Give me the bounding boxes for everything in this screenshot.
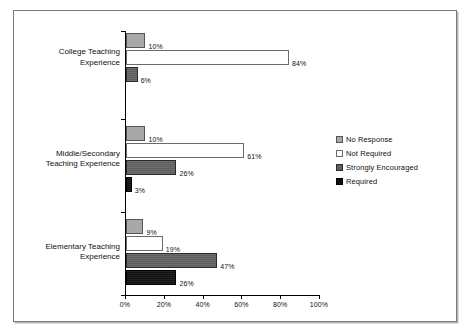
bar (126, 219, 143, 234)
bar-value-label: 84% (292, 60, 306, 67)
category-label-line: Teaching Experience (16, 159, 120, 170)
legend-label: Not Required (346, 149, 391, 158)
bar-value-label: 26% (179, 280, 193, 287)
bar-value-label: 47% (220, 263, 234, 270)
category-label-line: Experience (16, 252, 120, 263)
y-axis-tick (121, 119, 125, 120)
legend-item: Strongly Encouraged (336, 160, 452, 174)
bar (126, 236, 163, 251)
chart-frame: College TeachingExperienceMiddle/Seconda… (13, 10, 457, 322)
bar-value-label: 3% (135, 187, 145, 194)
bar-value-label: 61% (247, 153, 261, 160)
bar-value-label: 9% (146, 229, 156, 236)
bar (126, 126, 145, 141)
x-axis-tick-label: 100% (310, 301, 328, 308)
category-axis-labels: College TeachingExperienceMiddle/Seconda… (14, 23, 120, 293)
category-label-line: Elementary Teaching (16, 242, 120, 253)
legend-swatch-icon (336, 150, 343, 157)
x-axis-tick (125, 295, 126, 299)
x-axis-tick-label: 80% (273, 301, 287, 308)
bar (126, 143, 244, 158)
category-label-line: College Teaching (16, 47, 120, 58)
legend-item: Not Required (336, 146, 452, 160)
x-axis-tick-label: 60% (234, 301, 248, 308)
category-label-line: Experience (16, 58, 120, 69)
category-label-line: Middle/Secondary (16, 149, 120, 160)
x-axis-tick (164, 295, 165, 299)
x-axis-tick (203, 295, 204, 299)
category-label: Middle/SecondaryTeaching Experience (16, 149, 120, 170)
legend-item: Required (336, 174, 452, 188)
bar-value-label: 26% (179, 170, 193, 177)
bar (126, 177, 132, 192)
category-label: College TeachingExperience (16, 47, 120, 68)
bar (126, 253, 217, 268)
legend-swatch-icon (336, 164, 343, 171)
bar (126, 160, 176, 175)
legend-label: Strongly Encouraged (346, 163, 418, 172)
x-axis-tick (241, 295, 242, 299)
bar-value-label: 19% (166, 246, 180, 253)
x-axis-tick-label: 20% (157, 301, 171, 308)
chart-legend: No ResponseNot RequiredStrongly Encourag… (336, 132, 452, 188)
x-axis-tick (319, 295, 320, 299)
y-axis-tick (121, 212, 125, 213)
bar (126, 67, 138, 82)
plot-area: 10%84%6%10%61%26%3%9%19%47%26% 0%20%40%6… (125, 23, 319, 293)
x-axis-tick (280, 295, 281, 299)
bar-value-label: 10% (148, 43, 162, 50)
x-axis-tick-label: 40% (195, 301, 209, 308)
y-axis-tick (121, 31, 125, 32)
bar (126, 33, 145, 48)
legend-label: No Response (346, 135, 393, 144)
legend-swatch-icon (336, 136, 343, 143)
x-axis-line (125, 295, 320, 296)
bar (126, 50, 289, 65)
bar-value-label: 6% (141, 77, 151, 84)
legend-swatch-icon (336, 178, 343, 185)
bar-value-label: 10% (148, 136, 162, 143)
bar (126, 270, 176, 285)
category-label: Elementary TeachingExperience (16, 242, 120, 263)
legend-item: No Response (336, 132, 452, 146)
legend-label: Required (346, 177, 377, 186)
x-axis-tick-label: 0% (120, 301, 130, 308)
